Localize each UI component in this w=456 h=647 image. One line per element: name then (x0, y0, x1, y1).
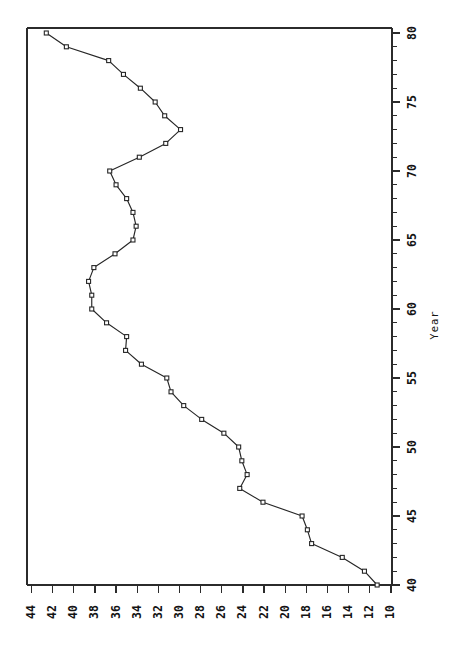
value-tick-label-16: 16 (320, 605, 334, 619)
value-tick-label-30: 30 (172, 605, 186, 619)
data-point-47 (238, 486, 242, 490)
data-point-41 (362, 569, 366, 573)
line-chart: 404550556065707580 444240383634323028262… (0, 0, 456, 647)
data-point-54 (169, 390, 173, 394)
year-tick-label-75: 75 (405, 95, 419, 109)
value-tick-label-28: 28 (193, 605, 207, 619)
value-tick-label-14: 14 (341, 605, 355, 619)
data-point-45 (300, 514, 304, 518)
data-point-73 (179, 128, 183, 132)
value-tick-label-26: 26 (214, 605, 228, 619)
value-tick-label-42: 42 (45, 605, 59, 619)
year-tick-label-50: 50 (405, 440, 419, 454)
data-point-53 (182, 404, 186, 408)
data-point-78 (107, 59, 111, 63)
data-point-48 (245, 473, 249, 477)
data-point-59 (105, 321, 109, 325)
value-tick-label-38: 38 (87, 605, 101, 619)
year-tick-label-80: 80 (405, 26, 419, 40)
value-tick-label-18: 18 (299, 605, 313, 619)
year-tick-label-45: 45 (405, 509, 419, 523)
value-tick-label-24: 24 (235, 605, 249, 619)
data-point-56 (139, 362, 143, 366)
value-tick-label-20: 20 (278, 605, 292, 619)
year-tick-label-55: 55 (405, 371, 419, 385)
data-point-62 (87, 279, 91, 283)
year-tick-label-70: 70 (405, 164, 419, 178)
data-point-67 (131, 210, 135, 214)
value-tick-label-22: 22 (257, 605, 271, 619)
data-point-65 (131, 238, 135, 242)
year-axis-title: Year (428, 310, 440, 339)
data-point-57 (124, 348, 128, 352)
data-point-42 (340, 555, 344, 559)
data-point-79 (64, 45, 68, 49)
data-point-49 (240, 459, 244, 463)
data-point-68 (125, 197, 129, 201)
data-point-60 (90, 307, 94, 311)
data-point-52 (200, 417, 204, 421)
data-point-80 (44, 31, 48, 35)
year-tick-label-60: 60 (405, 302, 419, 316)
data-point-71 (137, 155, 141, 159)
data-point-76 (138, 86, 142, 90)
data-point-77 (121, 72, 125, 76)
chart-background (0, 0, 456, 647)
data-point-74 (163, 114, 167, 118)
chart-container: 404550556065707580 444240383634323028262… (0, 0, 456, 647)
data-point-44 (305, 528, 309, 532)
data-point-75 (153, 100, 157, 104)
data-point-64 (113, 252, 117, 256)
data-point-40 (375, 583, 379, 587)
value-tick-label-40: 40 (66, 605, 80, 619)
data-point-69 (114, 183, 118, 187)
data-point-55 (165, 376, 169, 380)
data-point-66 (134, 224, 138, 228)
value-tick-label-32: 32 (151, 605, 165, 619)
year-tick-label-40: 40 (405, 578, 419, 592)
value-tick-label-34: 34 (130, 605, 144, 619)
value-tick-label-36: 36 (109, 605, 123, 619)
data-point-61 (90, 293, 94, 297)
data-point-51 (222, 431, 226, 435)
year-tick-label-65: 65 (405, 233, 419, 247)
value-tick-label-12: 12 (362, 605, 376, 619)
data-point-72 (164, 141, 168, 145)
data-point-43 (310, 542, 314, 546)
data-point-50 (237, 445, 241, 449)
data-point-58 (125, 335, 129, 339)
data-point-70 (108, 169, 112, 173)
data-point-63 (92, 266, 96, 270)
value-tick-label-10: 10 (383, 605, 397, 619)
data-point-46 (261, 500, 265, 504)
value-tick-label-44: 44 (24, 605, 38, 619)
